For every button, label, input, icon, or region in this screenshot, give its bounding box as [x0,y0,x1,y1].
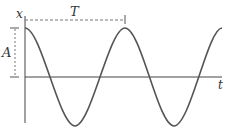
oscillation-diagram: x t T A [0,0,232,135]
period-label: T [70,4,80,19]
x-axis-label: x [16,7,23,21]
t-axis-label: t [218,78,223,92]
amplitude-label: A [1,45,11,60]
